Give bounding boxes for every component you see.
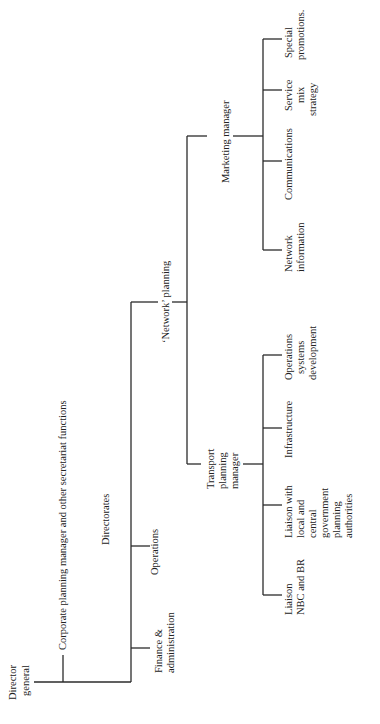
node-director-general: Director general xyxy=(7,665,31,700)
finance-line-1: Finance & xyxy=(153,629,164,673)
communications-label: Communications xyxy=(283,128,294,200)
service-mix-line-1: Service xyxy=(283,79,294,111)
liaison-nbc-line-2: NBC and BR xyxy=(295,559,306,615)
node-special-promotions: Special promotions. xyxy=(283,10,306,60)
node-transport-planning-manager: Transport planning manager xyxy=(205,448,240,489)
ops-systems-line-3: development xyxy=(307,326,318,380)
network-info-line-1: Network xyxy=(283,235,294,272)
service-mix-line-3: strategy xyxy=(307,82,318,116)
node-liaison-local-central: Liaison with local and central governmen… xyxy=(283,484,354,538)
liaison-local-line-2: local and xyxy=(295,499,306,538)
liaison-local-line-6: authorities xyxy=(343,494,354,538)
node-network-planning: ‘Network’ planning xyxy=(160,260,171,343)
ops-systems-line-1: Operations xyxy=(283,334,294,380)
transport-line-3: manager xyxy=(229,452,240,489)
marketing-manager-label: Marketing manager xyxy=(220,100,231,183)
liaison-nbc-line-1: Liaison xyxy=(283,583,294,615)
liaison-local-line-5: planning xyxy=(331,501,342,538)
node-corporate-planning: Corporate planning manager and other sec… xyxy=(57,400,68,650)
transport-line-1: Transport xyxy=(205,448,216,489)
network-planning-label: ‘Network’ planning xyxy=(160,260,171,343)
liaison-local-line-4: government xyxy=(319,488,330,538)
node-marketing-manager: Marketing manager xyxy=(220,100,231,183)
node-service-mix-strategy: Service mix strategy xyxy=(283,79,318,116)
liaison-local-line-3: central xyxy=(307,509,318,538)
special-promotions-line-2: promotions. xyxy=(295,10,306,60)
node-liaison-nbc-br: Liaison NBC and BR xyxy=(283,559,306,615)
node-operations: Operations xyxy=(149,529,160,575)
liaison-local-line-1: Liaison with xyxy=(283,484,294,538)
node-communications: Communications xyxy=(283,128,294,200)
node-network-information: Network information xyxy=(283,222,306,272)
operations-label: Operations xyxy=(149,529,160,575)
connector-lines xyxy=(34,39,282,682)
heading-directorates: Directorates xyxy=(100,494,111,545)
director-general-line-2: general xyxy=(20,665,31,696)
network-info-line-2: information xyxy=(295,222,306,272)
special-promotions-line-1: Special xyxy=(283,27,294,58)
ops-systems-line-2: systems xyxy=(295,341,306,374)
finance-line-2: administration xyxy=(165,612,176,673)
service-mix-line-2: mix xyxy=(295,86,306,103)
transport-line-2: planning xyxy=(217,452,228,489)
node-infrastructure: Infrastructure xyxy=(283,401,294,458)
corporate-planning-label: Corporate planning manager and other sec… xyxy=(57,400,68,650)
directorates-label: Directorates xyxy=(100,494,111,545)
infrastructure-label: Infrastructure xyxy=(283,401,294,458)
node-operations-systems-development: Operations systems development xyxy=(283,326,318,380)
org-chart: Director general Corporate planning mana… xyxy=(0,0,380,724)
director-general-line-1: Director xyxy=(7,665,18,700)
node-finance-administration: Finance & administration xyxy=(153,612,176,673)
